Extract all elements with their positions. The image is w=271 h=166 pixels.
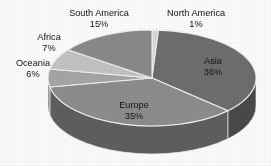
pie-top-faces [48,30,256,126]
slice-label-north-america: North America [167,8,226,18]
slice-label-africa: Africa [37,32,61,42]
slice-value-asia: 36% [204,67,222,77]
slice-label-south-america: South America [69,8,130,18]
slice-value-oceania: 6% [26,69,39,79]
slice-value-europe: 35% [125,111,143,121]
slice-label-asia: Asia [204,56,223,66]
pie-chart-canvas: North America1%Asia36%Europe35%Oceania6%… [0,0,271,166]
slice-value-north-america: 1% [189,19,202,29]
slice-label-europe: Europe [119,100,149,110]
slice-value-south-america: 15% [90,19,108,29]
slice-label-oceania: Oceania [16,58,51,68]
pie-chart-figure: North America1%Asia36%Europe35%Oceania6%… [0,0,271,166]
slice-value-africa: 7% [42,43,55,53]
